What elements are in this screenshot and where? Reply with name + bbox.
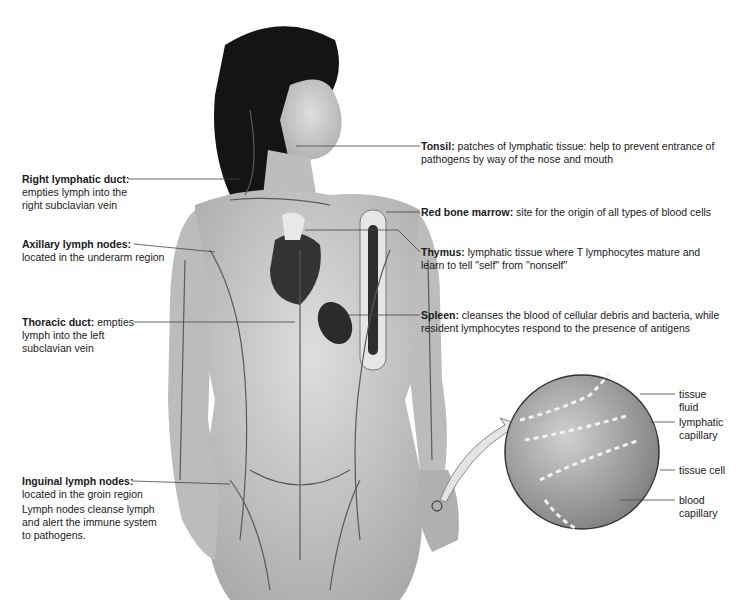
inset-label-line: lymphatic (679, 416, 723, 428)
label-term: Tonsil: (421, 140, 455, 152)
label-desc-inline: patches of lymphatic tissue: help to pre… (458, 140, 715, 152)
inset-label-line: capillary (679, 429, 718, 441)
label-term: Red bone marrow: (421, 206, 513, 218)
lymph-nodes-note: Lymph nodes cleanse lymph and alert the … (22, 503, 157, 542)
label-tonsil: Tonsil: patches of lymphatic tissue: hel… (421, 140, 714, 166)
label-term: Axillary lymph nodes: (22, 238, 131, 250)
label-desc-inline: cleanses the blood of cellular debris an… (462, 309, 719, 321)
label-thoracic-duct: Thoracic duct: empties lymph into the le… (22, 316, 134, 355)
inset-label-line: fluid (679, 401, 698, 413)
label-desc-inline: site for the origin of all types of bloo… (516, 206, 711, 218)
label-term: Thoracic duct: (22, 316, 94, 328)
label-desc: lymph into the left (22, 329, 104, 341)
label-red-bone-marrow: Red bone marrow: site for the origin of … (421, 206, 711, 219)
label-desc: located in the groin region (22, 488, 143, 500)
label-term: Right lymphatic duct: (22, 173, 129, 185)
note-line: to pathogens. (22, 529, 86, 541)
face (280, 79, 342, 165)
label-term: Thymus: (421, 246, 465, 258)
inset-label-lymphatic-capillary: lymphatic capillary (679, 416, 723, 442)
inset-label-tissue-fluid: tissue fluid (679, 388, 706, 414)
label-desc: learn to tell "self" from "nonself" (421, 259, 567, 271)
label-desc: located in the underarm region (22, 251, 164, 263)
label-desc: resident lymphocytes respond to the pres… (421, 322, 690, 334)
inset-label-line: tissue (679, 388, 706, 400)
label-thymus: Thymus: lymphatic tissue where T lymphoc… (421, 246, 700, 272)
note-line: Lymph nodes cleanse lymph (22, 503, 155, 515)
note-line: and alert the immune system (22, 516, 157, 528)
inset-label-line: blood (679, 494, 705, 506)
label-desc: subclavian vein (22, 342, 94, 354)
label-desc: empties lymph into the (22, 186, 127, 198)
label-desc: pathogens by way of the nose and mouth (421, 153, 613, 165)
inset-label-blood-capillary: blood capillary (679, 494, 718, 520)
label-term: Inguinal lymph nodes: (22, 475, 133, 487)
label-term: Spleen: (421, 309, 459, 321)
label-desc-inline: lymphatic tissue where T lymphocytes mat… (468, 246, 700, 258)
label-desc-inline: empties (97, 316, 134, 328)
label-desc: right subclavian vein (22, 199, 117, 211)
label-spleen: Spleen: cleanses the blood of cellular d… (421, 309, 719, 335)
label-axillary-lymph-nodes: Axillary lymph nodes: located in the und… (22, 238, 164, 264)
inset-label-line: capillary (679, 507, 718, 519)
label-inguinal-lymph-nodes: Inguinal lymph nodes: located in the gro… (22, 475, 143, 501)
inset-label-line: tissue cell (679, 464, 725, 476)
label-right-lymphatic-duct: Right lymphatic duct: empties lymph into… (22, 173, 129, 212)
inset-label-tissue-cell: tissue cell (679, 464, 725, 477)
